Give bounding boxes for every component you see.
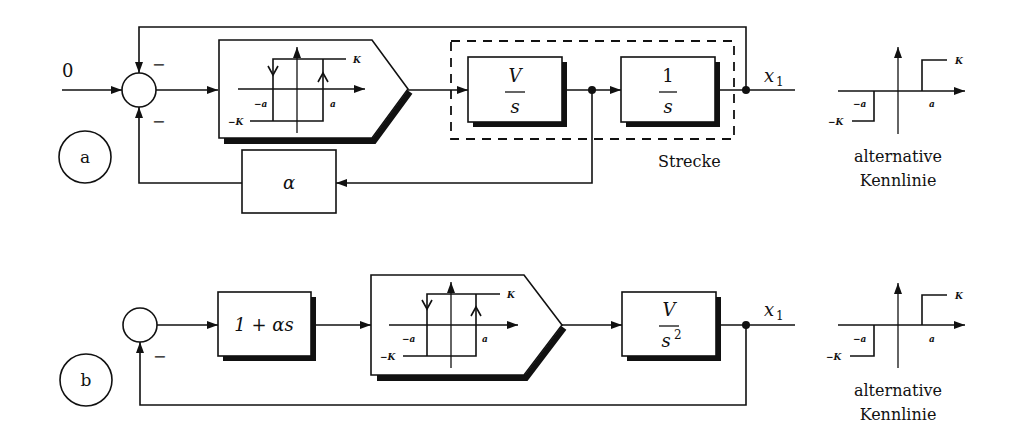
- alt-minus-K-label: −K: [826, 352, 843, 362]
- denominator: s: [510, 96, 519, 117]
- alt-caption-line1: alternative: [854, 381, 942, 400]
- output-variable: x: [764, 65, 774, 86]
- alt-K-label: K: [954, 56, 964, 66]
- block-diagram-svg: 0 − − K −K −a a Strecke: [0, 0, 1020, 446]
- output-subscript: 1: [776, 75, 784, 89]
- hysteresis-minus-a-label: −a: [254, 99, 268, 109]
- alternative-characteristic-a: K −K −a a alternative Kennlinie: [828, 47, 965, 190]
- hysteresis-minus-K-label: −K: [228, 117, 245, 127]
- output-subscript: 1: [776, 309, 784, 323]
- numerator: V: [663, 299, 678, 320]
- denominator: s: [661, 330, 670, 351]
- alt-minus-a-label: −a: [853, 99, 867, 109]
- pd-block-label: 1 + αs: [234, 314, 293, 335]
- diagram-a: 0 − − K −K −a a Strecke: [59, 27, 965, 213]
- diagram-b: − 1 + αs K −K −a a: [60, 275, 965, 424]
- summing-junction-a: [122, 73, 156, 107]
- alt-minus-a-label: −a: [853, 334, 867, 344]
- output-variable: x: [764, 299, 774, 320]
- sum-sign-bottom: −: [152, 112, 165, 131]
- sum-sign-top: −: [152, 55, 165, 74]
- alt-caption-line2: Kennlinie: [860, 171, 937, 190]
- integrator-block-1-s: 1 s: [621, 57, 720, 127]
- denominator: s: [663, 96, 672, 117]
- alt-step-positive: [922, 295, 947, 325]
- hysteresis-K-label: K: [506, 290, 516, 300]
- feedback-gain-label: α: [283, 172, 295, 193]
- diagram-label-a: a: [80, 147, 90, 167]
- alt-a-label: a: [929, 334, 935, 344]
- integrator-block-v-s: V s: [468, 57, 567, 127]
- block-diagram-canvas: 0 − − K −K −a a Strecke: [0, 0, 1020, 446]
- hysteresis-K-label: K: [352, 55, 362, 65]
- numerator: 1: [662, 65, 673, 86]
- numerator: V: [509, 65, 524, 86]
- plant-label: Strecke: [658, 152, 721, 171]
- hysteresis-block-b: K −K −a a: [371, 275, 564, 378]
- hysteresis-minus-a-label: −a: [402, 334, 416, 344]
- alt-step-positive: [922, 60, 947, 91]
- hysteresis-a-label: a: [330, 99, 336, 109]
- alt-K-label: K: [954, 291, 964, 301]
- hysteresis-a-label: a: [482, 334, 488, 344]
- alternative-characteristic-b: K −K −a a alternative Kennlinie: [826, 283, 965, 424]
- hysteresis-minus-K-label: −K: [380, 352, 397, 362]
- plant-block-v-s2: V s 2: [622, 292, 721, 361]
- hysteresis-block-a: K −K −a a: [219, 40, 410, 141]
- alt-caption-line1: alternative: [854, 147, 942, 166]
- diagram-label-b: b: [81, 370, 92, 390]
- sum-sign-bottom: −: [153, 347, 166, 366]
- input-value-label: 0: [62, 60, 73, 81]
- alt-caption-line2: Kennlinie: [860, 405, 937, 424]
- denominator-exponent: 2: [674, 328, 682, 342]
- alt-minus-K-label: −K: [828, 117, 845, 127]
- alt-a-label: a: [929, 99, 935, 109]
- pd-block: 1 + αs: [218, 292, 316, 361]
- summing-junction-b: [123, 308, 157, 342]
